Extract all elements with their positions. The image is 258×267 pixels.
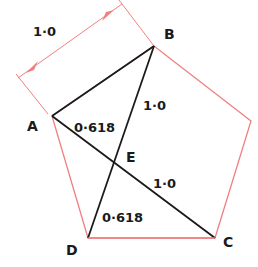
pentagon-outline xyxy=(52,46,251,238)
segment-label-be: 1·0 xyxy=(143,98,166,113)
dimension-extension-left xyxy=(16,74,48,114)
dimension-extension-right xyxy=(119,0,154,46)
vertex-label-c: C xyxy=(223,234,233,250)
side-ab xyxy=(52,46,154,116)
vertex-label-d: D xyxy=(66,242,78,258)
vertex-label-b: B xyxy=(164,26,175,42)
segment-label-ec: 1·0 xyxy=(153,176,176,191)
vertex-label-e: E xyxy=(126,149,136,165)
segment-label-de: 0·618 xyxy=(102,210,143,225)
pentagon-diagram: A B C D E 1·0 0·618 1·0 1·0 0·618 xyxy=(0,0,258,267)
vertex-label-a: A xyxy=(27,118,38,134)
segment-label-ae: 0·618 xyxy=(74,120,115,135)
dimension-label: 1·0 xyxy=(33,24,56,39)
dimension-arrow-right xyxy=(102,10,114,21)
